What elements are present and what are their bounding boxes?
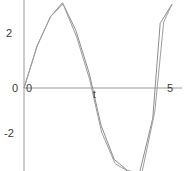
axis-group bbox=[24, 0, 182, 171]
plot-figure: 2 0 -2 0 5 t bbox=[0, 0, 187, 171]
series-group bbox=[24, 3, 172, 171]
x-axis-tick-label-5: 5 bbox=[167, 83, 173, 94]
y-axis-tick-label-negative-2: -2 bbox=[4, 128, 14, 139]
y-axis-tick-label-0: 0 bbox=[12, 83, 18, 94]
x-axis-tick-label-0: 0 bbox=[26, 83, 32, 94]
x-axis-name-label: t bbox=[93, 90, 96, 100]
data-curve-1 bbox=[24, 3, 172, 171]
y-axis-tick-label-2: 2 bbox=[6, 28, 12, 39]
